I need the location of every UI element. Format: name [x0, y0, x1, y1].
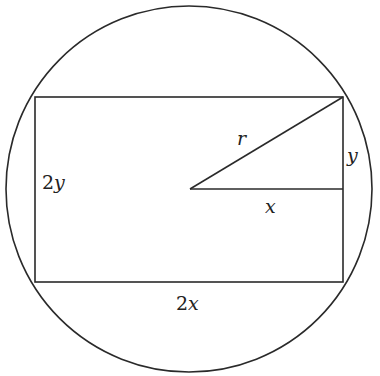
label-x: x	[265, 195, 276, 217]
radius-line	[190, 97, 343, 189]
label-r: r	[237, 127, 248, 149]
inscribed-rectangle-diagram: r y x 2y 2x	[0, 0, 380, 376]
label-2y: 2y	[42, 171, 65, 193]
label-2x: 2x	[176, 292, 199, 314]
label-y: y	[346, 144, 358, 166]
